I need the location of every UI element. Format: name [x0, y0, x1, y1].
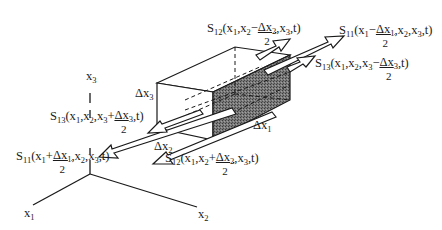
- stress-label-s13-plus: S13(x1,x2,x3+Δx32,t): [50, 104, 144, 130]
- stress-label-s12-plus: S12(x1,x2+Δx22,x3,t): [165, 146, 259, 172]
- axis-label-x1: x1: [24, 207, 35, 222]
- dimension-label-dx3: Δx3: [135, 87, 154, 102]
- axis-label-x2: x2: [198, 208, 209, 223]
- stress-label-s11-minus: S11(x1−Δx12,x2,x3,t): [339, 18, 432, 44]
- dimension-label-dx1: Δx1: [253, 119, 272, 134]
- stress-diagram: x3 x1 x2 Δx3 Δx2 Δx1 S12(x1,x2−Δx22,x3,t…: [0, 0, 442, 230]
- x1-axis: [33, 174, 90, 205]
- x2-axis: [90, 174, 197, 207]
- stress-label-s12-minus: S12(x1,x2−Δx22,x3,t): [207, 16, 301, 42]
- axis-label-x3: x3: [86, 70, 97, 85]
- stress-label-s13-minus: S13(x1,x2,x3−Δx32,t): [315, 51, 409, 77]
- stress-label-s11-plus: S11(x1+Δx12,x2,x3,t): [16, 144, 109, 170]
